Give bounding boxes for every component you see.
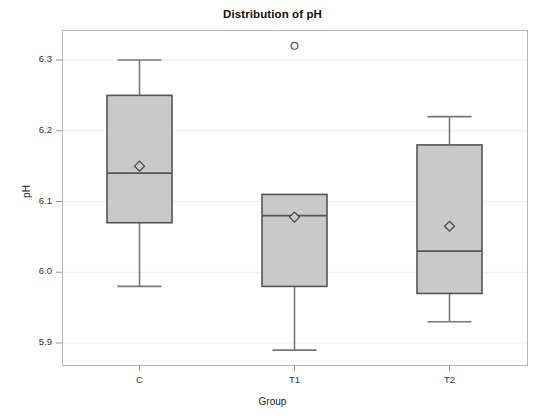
plot-area — [0, 0, 545, 420]
boxplot-chart: Distribution of pH pH Group 6.3 6.2 6.1 … — [0, 0, 545, 420]
outlier-point — [291, 42, 298, 49]
box-c — [107, 95, 172, 222]
box-t2 — [417, 145, 482, 294]
box-t1 — [262, 194, 327, 286]
